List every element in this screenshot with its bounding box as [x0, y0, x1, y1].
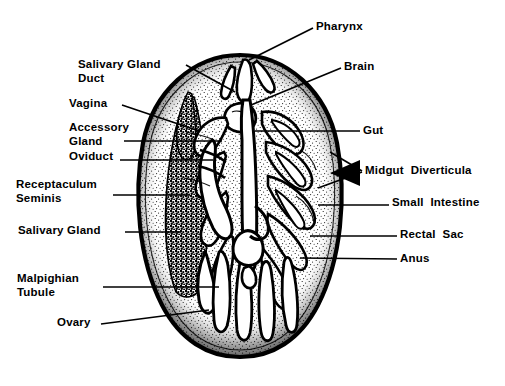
label-malpighian-tubule: MalpighianTubule: [17, 272, 79, 299]
rectal-sac: [233, 231, 263, 266]
label-line-2: Duct: [78, 72, 104, 84]
label-pharynx: Pharynx: [316, 20, 363, 34]
label-accessory-gland: AccessoryGland: [69, 121, 129, 148]
label-line-1: Salivary Gland: [78, 58, 161, 70]
label-receptaculum-seminis: ReceptaculumSeminis: [16, 178, 97, 205]
leader-anus: [300, 258, 397, 259]
label-vagina: Vagina: [69, 97, 107, 111]
label-line-2: Gland: [69, 135, 103, 147]
label-rectal-sac: Rectal Sac: [400, 228, 464, 242]
label-line-1: Malpighian: [17, 272, 79, 284]
label-line-1: Accessory: [69, 121, 129, 133]
label-salivary-gland-duct: Salivary GlandDuct: [78, 58, 161, 85]
label-gut: Gut: [363, 124, 383, 138]
leader-pharynx: [249, 28, 313, 60]
label-salivary-gland: Salivary Gland: [18, 224, 101, 238]
anus: [242, 266, 256, 288]
label-line-2: Seminis: [16, 192, 62, 204]
label-line-2: Tubule: [17, 286, 55, 298]
label-brain: Brain: [344, 60, 374, 74]
anatomy-figure: Pharynx Brain Gut Midgut Diverticula Sma…: [0, 0, 505, 386]
label-oviduct: Oviduct: [69, 150, 113, 164]
label-midgut-diverticula: Midgut Diverticula: [365, 164, 472, 178]
label-small-intestine: Small Intestine: [392, 196, 480, 210]
label-line-1: Receptaculum: [16, 178, 97, 190]
label-anus: Anus: [400, 252, 430, 266]
label-ovary: Ovary: [57, 316, 91, 330]
